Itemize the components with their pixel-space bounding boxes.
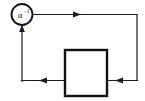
summing-node-label: α — [18, 10, 23, 20]
process-block[interactable] — [65, 50, 107, 96]
summing-node-label-superscript: −1 — [24, 8, 30, 14]
block-diagram-canvas: α −1 — [0, 0, 145, 101]
block-diagram-svg: α −1 — [0, 0, 145, 101]
arrow-right-forward-icon — [73, 12, 81, 18]
arrow-left-output-icon — [39, 78, 47, 84]
arrow-left-into-block-icon — [115, 78, 123, 84]
